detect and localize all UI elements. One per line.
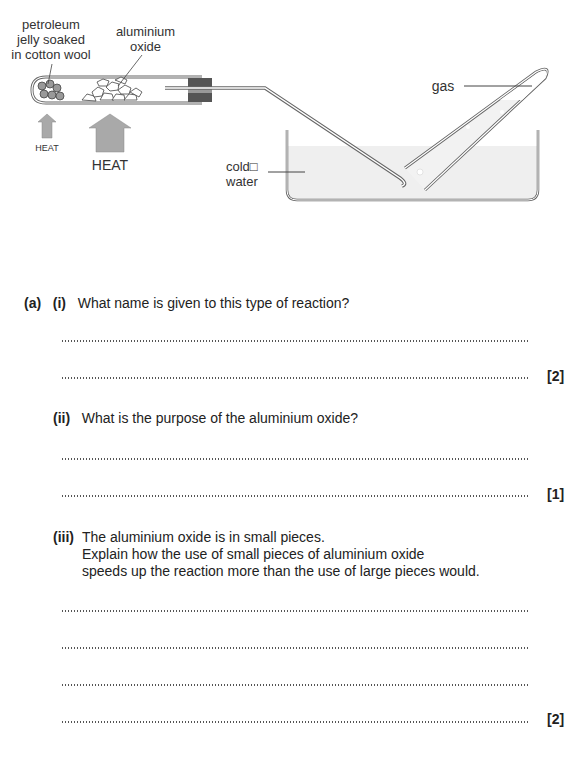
petroleum-label: petroleum jelly soaked in cotton wool <box>6 17 96 62</box>
heat-label-large: HEAT <box>85 158 135 173</box>
answer-line[interactable] <box>61 458 528 460</box>
answer-line[interactable] <box>61 377 528 379</box>
cold-water-label-line: cold□ <box>226 159 276 174</box>
q3-number: (iii) <box>53 529 74 545</box>
answer-line[interactable] <box>61 495 528 497</box>
heat-arrow-small <box>38 114 56 138</box>
q3-text: The aluminium oxide is in small pieces. … <box>82 529 480 580</box>
q1-marks: [2] <box>547 368 564 385</box>
answer-line[interactable] <box>61 684 528 686</box>
q3-text-line: speeds up the reaction more than the use… <box>82 563 480 580</box>
answer-line[interactable] <box>61 340 528 342</box>
aluminium-label-line: aluminium <box>108 24 183 39</box>
q2-number: (ii) <box>53 410 70 426</box>
cold-water-label-line: water <box>226 174 276 189</box>
q3-text-line: Explain how the use of small pieces of a… <box>82 546 480 563</box>
petroleum-label-line: in cotton wool <box>6 47 96 62</box>
heat-label-small: HEAT <box>30 141 64 156</box>
petroleum-label-line: petroleum <box>6 17 96 32</box>
part-label: (a) <box>24 295 41 311</box>
aluminium-oxide-label: aluminium oxide <box>108 24 183 54</box>
bung-bottom <box>188 93 212 102</box>
answer-line[interactable] <box>61 610 528 612</box>
question-a-iii: (iii) <box>53 529 74 546</box>
q1-text: What name is given to this type of react… <box>78 295 350 311</box>
answer-line[interactable] <box>61 721 528 723</box>
petroleum-label-line: jelly soaked <box>6 32 96 47</box>
gas-label: gas <box>428 79 458 94</box>
bung-top <box>188 78 212 87</box>
q2-text: What is the purpose of the aluminium oxi… <box>82 410 358 426</box>
question-a-ii: (ii) What is the purpose of the aluminiu… <box>53 410 358 427</box>
q1-number: (i) <box>53 295 66 311</box>
aluminium-label-line: oxide <box>108 39 183 54</box>
q3-marks: [2] <box>547 711 564 728</box>
aluminium-oxide-pieces <box>82 77 142 101</box>
gas-bubble <box>417 169 423 175</box>
q3-text-line: The aluminium oxide is in small pieces. <box>82 529 480 546</box>
heat-arrow-large <box>89 114 131 152</box>
apparatus-diagram: petroleum jelly soaked in cotton wool al… <box>0 0 587 215</box>
question-a-i: (a) (i) What name is given to this type … <box>24 295 349 312</box>
cotton-wool <box>38 80 64 100</box>
cold-water-label: cold□ water <box>226 159 276 189</box>
answer-line[interactable] <box>61 647 528 649</box>
q2-marks: [1] <box>547 486 564 503</box>
